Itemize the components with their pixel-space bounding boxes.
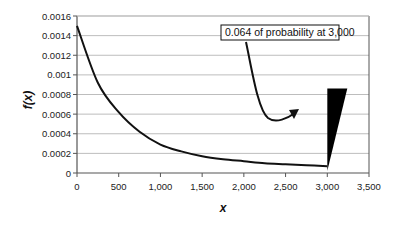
x-tick-label: 0 xyxy=(74,181,79,192)
y-tick-label: 0.0004 xyxy=(42,128,71,139)
x-axis-ticks: 05001,0001,5002,0002,5003,0003,500 xyxy=(74,173,381,192)
y-tick-label: 0.0016 xyxy=(42,11,71,22)
y-tick-label: 0.001 xyxy=(47,69,71,80)
y-tick-label: 0.0006 xyxy=(42,109,71,120)
x-tick-label: 2,000 xyxy=(232,181,256,192)
x-axis-title: x xyxy=(219,201,228,215)
y-axis-title: f(x) xyxy=(21,91,35,110)
x-tick-label: 2,500 xyxy=(274,181,298,192)
y-axis-ticks: 00.00020.00040.00060.00080.0010.00120.00… xyxy=(42,11,77,179)
y-tick-label: 0.0014 xyxy=(42,30,71,41)
x-tick-label: 3,500 xyxy=(357,181,381,192)
y-tick-label: 0 xyxy=(66,168,71,179)
point-mass-spike xyxy=(327,89,347,171)
y-tick-label: 0.0002 xyxy=(42,148,71,159)
annotation-text: 0.064 of probability at 3,000 xyxy=(225,26,355,38)
x-tick-label: 1,500 xyxy=(190,181,214,192)
x-tick-label: 1,000 xyxy=(149,181,173,192)
x-tick-label: 500 xyxy=(111,181,127,192)
annotation-arrow xyxy=(246,42,295,121)
y-tick-label: 0.0008 xyxy=(42,89,71,100)
y-tick-label: 0.0012 xyxy=(42,50,71,61)
chart: 00.00020.00040.00060.00080.0010.00120.00… xyxy=(0,0,399,225)
x-tick-label: 3,000 xyxy=(315,181,339,192)
density-curve xyxy=(77,26,327,166)
